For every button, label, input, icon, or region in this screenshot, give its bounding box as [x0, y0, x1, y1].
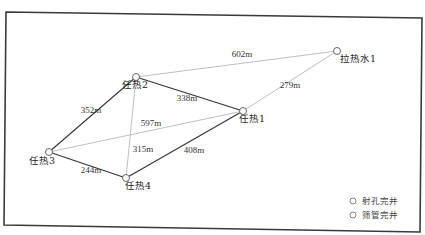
- edge-distance-label: 244m: [81, 165, 102, 175]
- edge-distance-label: 352m: [81, 105, 102, 115]
- legend-screen-pipe-label: 筛管完井: [362, 210, 398, 220]
- well-node-label: 任热1: [239, 113, 265, 124]
- well-network-diagram: 338m352m244m408m602m279m597m315m 任热2拉热水1…: [0, 0, 425, 235]
- edge-distance-label: 338m: [177, 93, 198, 103]
- diagram-frame: [4, 12, 422, 232]
- edge-distance-label: 597m: [141, 118, 162, 128]
- well-node-label: 拉热水1: [340, 53, 376, 64]
- edge-distance-label: 408m: [184, 145, 205, 155]
- edge-distance-label: 279m: [280, 80, 301, 90]
- legend-perforation-label: 射孔完井: [362, 196, 398, 206]
- edge-distance-label: 315m: [133, 144, 154, 154]
- well-node-label: 任热3: [29, 155, 55, 166]
- well-node-label: 任热4: [125, 180, 151, 191]
- well-node-label: 任热2: [122, 79, 148, 90]
- edge-distance-label: 602m: [232, 49, 253, 59]
